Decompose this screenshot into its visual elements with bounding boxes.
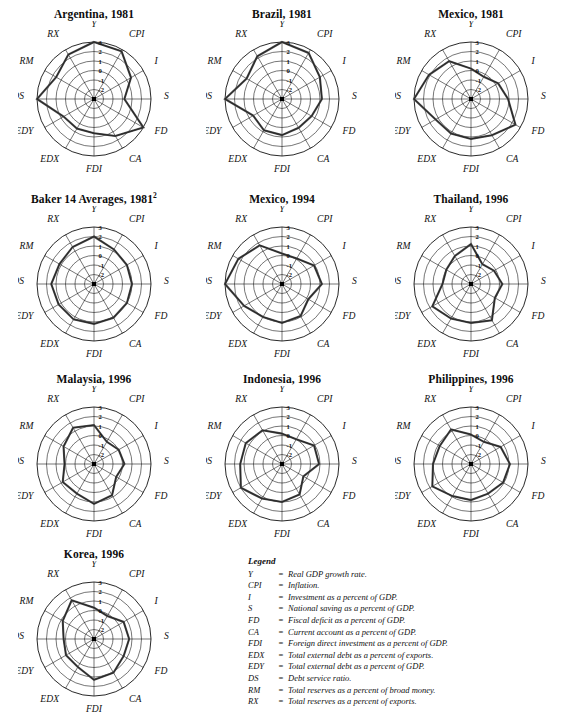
axis-label-rx: RX <box>234 212 248 223</box>
radar-plot: 3210-1-2YCPIISFDCAFDIEDXEDYDSRMRX <box>18 561 170 713</box>
chart-panel: Baker 14 Averages, 198123210-1-2YCPIISFD… <box>0 185 188 365</box>
axis-spoke <box>282 435 331 464</box>
tick-label: -2 <box>476 451 482 458</box>
tick-label: -1 <box>99 261 105 268</box>
tick-label: 2 <box>99 233 103 240</box>
center-marker <box>92 97 96 101</box>
data-polygon <box>414 61 515 139</box>
axis-label-edy: EDY <box>206 490 223 501</box>
axis-label-edy: EDY <box>206 310 223 321</box>
legend-description: Total external debt as a percent of GDP. <box>288 661 448 673</box>
axis-label-rx: RX <box>234 27 248 38</box>
axis-spoke <box>443 414 472 463</box>
axis-label-fdi: FDI <box>462 527 480 537</box>
axis-label-ds: DS <box>18 630 24 641</box>
axis-label-i: I <box>342 420 347 431</box>
legend-abbr: CA <box>248 627 278 639</box>
axis-spoke <box>471 284 500 333</box>
axis-spoke <box>422 284 471 313</box>
axis-label-fd: FD <box>342 310 356 321</box>
tick-label: -2 <box>476 86 482 93</box>
axis-label-ca: CA <box>317 153 329 164</box>
axis-spoke <box>94 99 123 148</box>
axis-label-cpi: CPI <box>506 212 522 223</box>
axis-label-y: Y <box>279 386 286 394</box>
radar-plot: 3210-1-2YCPIISFDCAFDIEDXEDYDSRMRX <box>395 21 547 173</box>
axis-label-fdi: FDI <box>85 347 103 357</box>
axis-label-ca: CA <box>129 518 141 529</box>
axis-label-rx: RX <box>423 212 437 223</box>
axis-label-ds: DS <box>395 455 401 466</box>
tick-label: 0 <box>287 67 291 74</box>
axis-label-s: S <box>164 90 169 101</box>
axis-label-rx: RX <box>234 392 248 403</box>
axis-spoke <box>443 464 472 513</box>
legend-equals: = <box>278 627 288 639</box>
axis-label-fdi: FDI <box>273 347 291 357</box>
tick-label: 2 <box>99 413 103 420</box>
axis-spoke <box>471 255 520 284</box>
legend-equals: = <box>278 615 288 627</box>
tick-label: 2 <box>476 48 480 55</box>
axis-label-s: S <box>352 90 357 101</box>
chart-title-text: Argentina, 1981 <box>54 8 134 20</box>
legend-abbr: FDI <box>248 638 278 650</box>
legend-row: CA=Current account as a percent of GDP. <box>248 627 448 639</box>
legend-table: Y=Real GDP growth rate.CPI=Inflation.I=I… <box>248 569 448 708</box>
tick-label: 2 <box>476 413 480 420</box>
legend-abbr: FD <box>248 615 278 627</box>
legend-equals: = <box>278 580 288 592</box>
legend-row: EDX=Total external debt as a percent of … <box>248 650 448 662</box>
tick-label: 1 <box>99 597 102 604</box>
axis-label-y: Y <box>91 206 98 214</box>
axis-spoke <box>254 464 283 513</box>
legend-description: National saving as a percent of GDP. <box>288 603 448 615</box>
legend-abbr: S <box>248 603 278 615</box>
axis-label-fdi: FDI <box>462 162 480 172</box>
chart-panel: Indonesia, 19963210-1-2YCPIISFDCAFDIEDXE… <box>188 365 376 540</box>
tick-label: 2 <box>287 233 291 240</box>
radar-plot: 3210-1-2YCPIISFDCAFDIEDXEDYDSRMRX <box>395 206 547 358</box>
tick-label: -2 <box>99 86 105 93</box>
tick-label: -1 <box>99 76 105 83</box>
legend-description: Investment as a percent of GDP. <box>288 592 448 604</box>
radar-container: 3210-1-2YCPIISFDCAFDIEDXEDYDSRMRX <box>188 206 376 358</box>
chart-title: Mexico, 1981 <box>376 0 566 21</box>
axis-label-y: Y <box>468 21 475 29</box>
axis-label-y: Y <box>468 206 475 214</box>
tick-label: 1 <box>476 422 479 429</box>
chart-title-text: Malaysia, 1996 <box>57 373 132 385</box>
axis-label-ca: CA <box>317 518 329 529</box>
tick-label: 0 <box>99 252 103 259</box>
chart-title-text: Philippines, 1996 <box>428 373 513 385</box>
chart-title: Argentina, 1981 <box>0 0 188 21</box>
legend-row: Y=Real GDP growth rate. <box>248 569 448 581</box>
legend-equals: = <box>278 673 288 685</box>
chart-title-text: Mexico, 1981 <box>438 8 504 20</box>
legend-description: Inflation. <box>288 580 448 592</box>
axis-label-edy: EDY <box>206 125 223 136</box>
axis-label-fd: FD <box>531 310 545 321</box>
tick-label: -2 <box>99 626 105 633</box>
axis-label-ca: CA <box>506 338 518 349</box>
axis-label-edy: EDY <box>18 310 35 321</box>
axis-label-ds: DS <box>18 275 24 286</box>
axis-spoke <box>66 589 95 638</box>
legend-row: I=Investment as a percent of GDP. <box>248 592 448 604</box>
chart-panel: Mexico, 19943210-1-2YCPIISFDCAFDIEDXEDYD… <box>188 185 376 365</box>
radar-plot: 3210-1-2YCPIISFDCAFDIEDXEDYDSRMRX <box>206 206 358 358</box>
axis-label-y: Y <box>91 561 98 569</box>
legend-description: Current account as a percent of GDP. <box>288 627 448 639</box>
axis-label-edx: EDX <box>227 338 248 349</box>
axis-label-y: Y <box>91 386 98 394</box>
tick-label: -1 <box>476 441 482 448</box>
radar-container: 3210-1-2YCPIISFDCAFDIEDXEDYDSRMRX <box>188 21 376 173</box>
tick-label: -2 <box>287 86 293 93</box>
tick-label: -2 <box>99 451 105 458</box>
axis-label-rx: RX <box>423 27 437 38</box>
axis-label-ds: DS <box>18 90 24 101</box>
axis-label-edx: EDX <box>39 693 60 704</box>
legend-description: Foreign direct investment as a percent o… <box>288 638 448 650</box>
axis-spoke <box>443 284 472 333</box>
axis-spoke <box>94 610 143 639</box>
